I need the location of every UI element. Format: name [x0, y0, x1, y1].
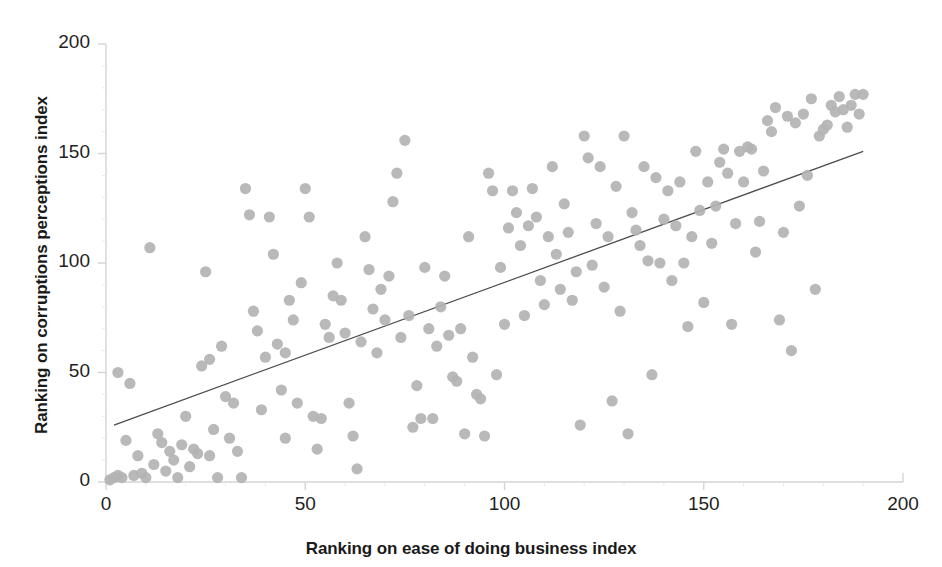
data-point — [455, 323, 466, 334]
data-point — [204, 450, 215, 461]
data-point — [630, 225, 641, 236]
data-point — [662, 185, 673, 196]
data-point — [280, 347, 291, 358]
data-point — [467, 352, 478, 363]
data-point — [650, 172, 661, 183]
data-point — [176, 439, 187, 450]
data-point — [407, 422, 418, 433]
data-point — [614, 306, 625, 317]
data-point — [240, 183, 251, 194]
data-point — [531, 211, 542, 222]
data-point — [399, 135, 410, 146]
data-point — [706, 238, 717, 249]
data-point — [371, 347, 382, 358]
data-point — [682, 321, 693, 332]
data-point — [646, 369, 657, 380]
data-point — [527, 183, 538, 194]
data-point — [276, 384, 287, 395]
data-point — [579, 130, 590, 141]
data-point — [499, 319, 510, 330]
data-point — [515, 240, 526, 251]
data-point — [244, 209, 255, 220]
data-point — [427, 413, 438, 424]
axis-lines — [106, 44, 903, 482]
x-tick-label: 50 — [275, 493, 335, 515]
data-point — [411, 380, 422, 391]
data-point — [120, 435, 131, 446]
data-point — [340, 327, 351, 338]
data-point — [419, 262, 430, 273]
data-point — [116, 472, 127, 483]
data-point — [248, 306, 259, 317]
data-point — [638, 161, 649, 172]
data-point — [475, 393, 486, 404]
data-point — [642, 255, 653, 266]
data-point — [834, 91, 845, 102]
data-point — [798, 108, 809, 119]
x-tick-label: 100 — [475, 493, 535, 515]
data-point — [208, 424, 219, 435]
data-point — [359, 231, 370, 242]
data-point — [622, 428, 633, 439]
data-point — [618, 130, 629, 141]
data-point — [435, 301, 446, 312]
data-point — [563, 227, 574, 238]
data-point — [192, 448, 203, 459]
data-point — [443, 330, 454, 341]
data-point — [439, 271, 450, 282]
data-point — [511, 207, 522, 218]
data-point — [415, 413, 426, 424]
data-point — [200, 266, 211, 277]
data-point — [423, 323, 434, 334]
data-point — [790, 117, 801, 128]
y-axis-title: Ranking on corruptions perceptions index — [32, 45, 52, 485]
data-point — [216, 341, 227, 352]
x-tick-label: 0 — [76, 493, 136, 515]
data-point — [212, 472, 223, 483]
data-point — [678, 257, 689, 268]
x-tick-label: 150 — [674, 493, 734, 515]
data-point — [690, 146, 701, 157]
data-point — [670, 220, 681, 231]
data-point — [702, 176, 713, 187]
data-point — [746, 144, 757, 155]
data-point — [846, 100, 857, 111]
data-point — [551, 249, 562, 260]
data-point — [168, 455, 179, 466]
data-point — [539, 299, 550, 310]
data-point — [535, 275, 546, 286]
data-point — [459, 428, 470, 439]
data-point — [722, 168, 733, 179]
data-point — [140, 472, 151, 483]
data-point — [842, 122, 853, 133]
data-point — [694, 205, 705, 216]
data-point — [156, 437, 167, 448]
data-point — [547, 161, 558, 172]
data-point — [304, 211, 315, 222]
data-point — [487, 185, 498, 196]
data-point — [324, 332, 335, 343]
data-point — [674, 176, 685, 187]
x-tick-label: 200 — [873, 493, 933, 515]
data-point — [491, 369, 502, 380]
data-point — [603, 231, 614, 242]
data-point — [686, 231, 697, 242]
data-point — [599, 281, 610, 292]
data-point — [236, 472, 247, 483]
data-point — [479, 430, 490, 441]
data-point — [132, 450, 143, 461]
data-point — [555, 284, 566, 295]
data-point — [543, 231, 554, 242]
data-point — [610, 181, 621, 192]
data-point — [786, 345, 797, 356]
data-point — [626, 207, 637, 218]
data-point — [391, 168, 402, 179]
data-point — [292, 398, 303, 409]
data-point — [571, 266, 582, 277]
data-point — [854, 108, 865, 119]
data-point — [320, 319, 331, 330]
data-point — [312, 444, 323, 455]
data-point — [523, 220, 534, 231]
data-point — [607, 395, 618, 406]
data-point — [634, 240, 645, 251]
